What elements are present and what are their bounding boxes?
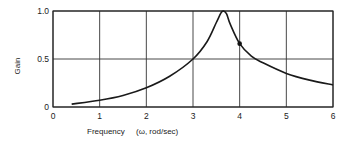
gain-frequency-chart: 0123456 00.51.0 Gain Frequency (ω, rod/s… (0, 0, 350, 144)
x-tick-label: 3 (191, 111, 196, 121)
x-tick-label: 0 (51, 111, 56, 121)
y-tick-label: 0.5 (37, 54, 49, 64)
y-tick-label: 0 (44, 102, 49, 112)
x-tick-label: 4 (237, 111, 242, 121)
y-axis-label: Gain (13, 58, 22, 75)
x-tick-label: 1 (97, 111, 102, 121)
gain-curve (72, 11, 333, 104)
x-tick-label: 5 (284, 111, 289, 121)
x-tick-label: 2 (144, 111, 149, 121)
curve-markers (237, 41, 242, 46)
x-axis-label: Frequency (87, 127, 125, 136)
x-tick-labels: 0123456 (51, 111, 336, 121)
y-tick-labels: 00.51.0 (37, 6, 49, 112)
y-tick-label: 1.0 (37, 6, 49, 16)
x-axis-units: (ω, rod/sec) (136, 127, 179, 136)
data-point-marker (237, 41, 242, 46)
x-tick-label: 6 (331, 111, 336, 121)
